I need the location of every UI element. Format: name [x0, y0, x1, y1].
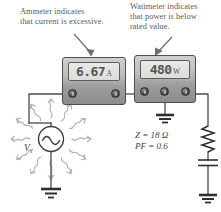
- wattmeter-terminal-left[interactable]: [140, 87, 149, 96]
- load-power-factor-label: PF = 0.6: [135, 141, 168, 152]
- annotation-arrow-wattmeter: [156, 37, 173, 55]
- annotation-arrow-ammeter: [74, 34, 94, 56]
- ammeter-terminal-left[interactable]: [68, 89, 77, 98]
- ac-source-symbol: [39, 127, 64, 152]
- resistor-symbol: [202, 126, 214, 152]
- ammeter-reading-value: 6.67: [76, 64, 105, 79]
- ground-symbol-source: [41, 189, 61, 198]
- annotation-wattmeter-note: Wattmeter indicates that power is below …: [130, 2, 216, 33]
- ammeter-display: 6.67 A: [68, 62, 120, 81]
- capacitor-symbol: [198, 160, 218, 166]
- wattmeter-reading-unit: W: [173, 67, 180, 76]
- source-voltage-subscript: s: [30, 147, 33, 154]
- annotation-ammeter-note: Ammeter indicates that current is excess…: [20, 7, 124, 27]
- wattmeter-reading-value: 480: [150, 62, 172, 77]
- load-impedance-text: Z = 18 Ω: [135, 130, 168, 140]
- ammeter-terminal-right[interactable]: [111, 89, 120, 98]
- ammeter[interactable]: 6.67 A: [62, 57, 126, 105]
- circuit-diagram-figure: Ammeter indicates that current is excess…: [0, 0, 221, 212]
- source-voltage-label: Vs: [24, 143, 32, 154]
- ammeter-reading-unit: A: [107, 69, 112, 78]
- load-impedance-label: Z = 18 Ω: [135, 130, 168, 141]
- ground-symbol-load: [199, 195, 217, 203]
- ground-symbol-wattmeter: [156, 115, 174, 123]
- load-power-factor-text: PF = 0.6: [135, 141, 168, 151]
- wattmeter-display: 480 W: [140, 60, 190, 79]
- wattmeter[interactable]: 480 W: [134, 55, 196, 103]
- wattmeter-terminal-middle[interactable]: [160, 87, 169, 96]
- wattmeter-terminal-right[interactable]: [181, 87, 190, 96]
